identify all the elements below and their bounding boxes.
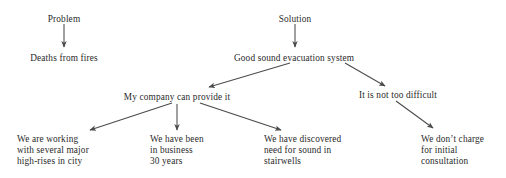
edge-mycompany-to-discovered: [200, 103, 281, 130]
node-nocharge: We don’t charge for initial consultation: [421, 134, 484, 168]
edge-goodsystem-to-mycompany: [209, 63, 290, 87]
node-solution: Solution: [279, 14, 312, 25]
tree-diagram: ProblemDeaths from firesSolutionGood sou…: [0, 0, 506, 178]
node-problem: Problem: [48, 14, 81, 25]
node-working: We are working with several major high-r…: [17, 134, 89, 168]
edge-goodsystem-to-notdifficult: [345, 63, 385, 86]
edge-notdifficult-to-nocharge: [396, 101, 433, 128]
node-business: We have been in business 30 years: [150, 134, 204, 168]
edge-mycompany-to-working: [90, 103, 172, 130]
node-deaths: Deaths from fires: [30, 53, 98, 64]
node-notdifficult: It is not too difficult: [359, 90, 437, 101]
node-discovered: We have discovered need for sound in sta…: [264, 134, 341, 168]
node-mycompany: My company can provide it: [124, 92, 231, 103]
node-goodsystem: Good sound evacuation system: [234, 53, 354, 64]
